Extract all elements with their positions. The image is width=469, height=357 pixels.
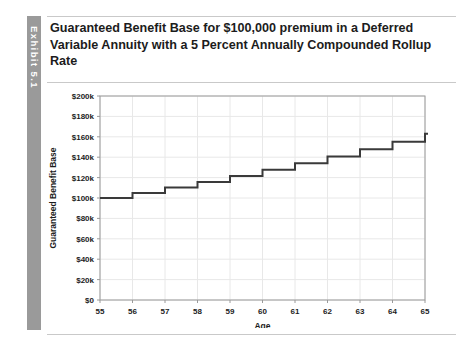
svg-text:55: 55: [96, 307, 105, 316]
y-axis-title: Guaranteed Benefit Base: [48, 147, 58, 248]
svg-text:65: 65: [421, 307, 430, 316]
svg-text:$0: $0: [85, 296, 94, 305]
svg-text:$120k: $120k: [72, 174, 95, 183]
x-axis-ticks: 5556575859606162636465: [96, 300, 430, 316]
step-line-chart: $0$20k$40k$60k$80k$100k$120k$140k$160k$1…: [44, 88, 444, 328]
svg-text:$180k: $180k: [72, 112, 95, 121]
svg-text:57: 57: [161, 307, 170, 316]
chart-plot-area: $0$20k$40k$60k$80k$100k$120k$140k$160k$1…: [44, 88, 444, 328]
svg-text:Guaranteed Benefit Base: Guaranteed Benefit Base: [48, 147, 58, 248]
svg-text:59: 59: [226, 307, 235, 316]
footer-rule: [47, 334, 456, 335]
exhibit-figure: Exhibit 5.1 Guaranteed Benefit Base for …: [0, 0, 469, 357]
svg-text:61: 61: [291, 307, 300, 316]
svg-text:58: 58: [193, 307, 202, 316]
svg-text:$40k: $40k: [76, 255, 94, 264]
title-rule-bottom: [47, 82, 456, 83]
svg-text:$60k: $60k: [76, 235, 94, 244]
svg-text:56: 56: [128, 307, 137, 316]
svg-text:Age: Age: [254, 321, 270, 328]
title-rule-top: [47, 16, 456, 17]
svg-text:64: 64: [388, 307, 397, 316]
svg-text:60: 60: [258, 307, 267, 316]
grid-lines: [100, 96, 425, 300]
svg-text:$160k: $160k: [72, 133, 95, 142]
y-axis-ticks: $0$20k$40k$60k$80k$100k$120k$140k$160k$1…: [72, 92, 100, 305]
exhibit-tab: Exhibit 5.1: [27, 16, 41, 330]
svg-text:$80k: $80k: [76, 214, 94, 223]
svg-text:$140k: $140k: [72, 153, 95, 162]
svg-text:$100k: $100k: [72, 194, 95, 203]
exhibit-tab-label: Exhibit 5.1: [29, 26, 40, 89]
svg-text:62: 62: [323, 307, 332, 316]
chart-title: Guaranteed Benefit Base for $100,000 pre…: [50, 20, 454, 70]
data-series-guaranteed-benefit-base: [100, 134, 428, 198]
svg-text:$200k: $200k: [72, 92, 95, 101]
svg-text:$20k: $20k: [76, 276, 94, 285]
svg-text:63: 63: [356, 307, 365, 316]
x-axis-title: Age: [254, 321, 270, 328]
